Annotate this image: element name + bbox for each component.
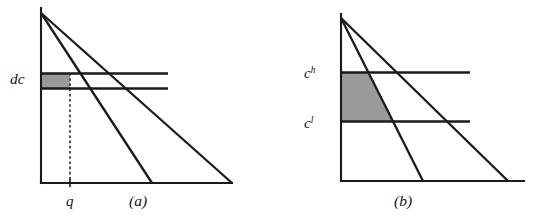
panel-a-shaded-region bbox=[42, 74, 70, 88]
panel-b-caption: (b) bbox=[394, 192, 412, 210]
panel-b-label-c-low: cl bbox=[304, 115, 314, 131]
panel-b-label-c-low-sup: l bbox=[311, 115, 314, 125]
panel-a-label-q: q bbox=[66, 193, 74, 209]
panel-b-shaded-region bbox=[342, 73, 392, 121]
panel-a bbox=[41, 8, 232, 187]
panel-a-caption: (a) bbox=[129, 192, 147, 210]
figure-canvas: dc q (a) ch cl (b) bbox=[0, 0, 535, 219]
panel-b-label-c-high-sup: h bbox=[311, 65, 316, 75]
panel-a-label-dc: dc bbox=[10, 70, 25, 87]
panel-b bbox=[341, 14, 524, 181]
panel-b-label-c-high: ch bbox=[304, 65, 316, 81]
figure-root: dc q (a) ch cl (b) bbox=[0, 0, 535, 219]
